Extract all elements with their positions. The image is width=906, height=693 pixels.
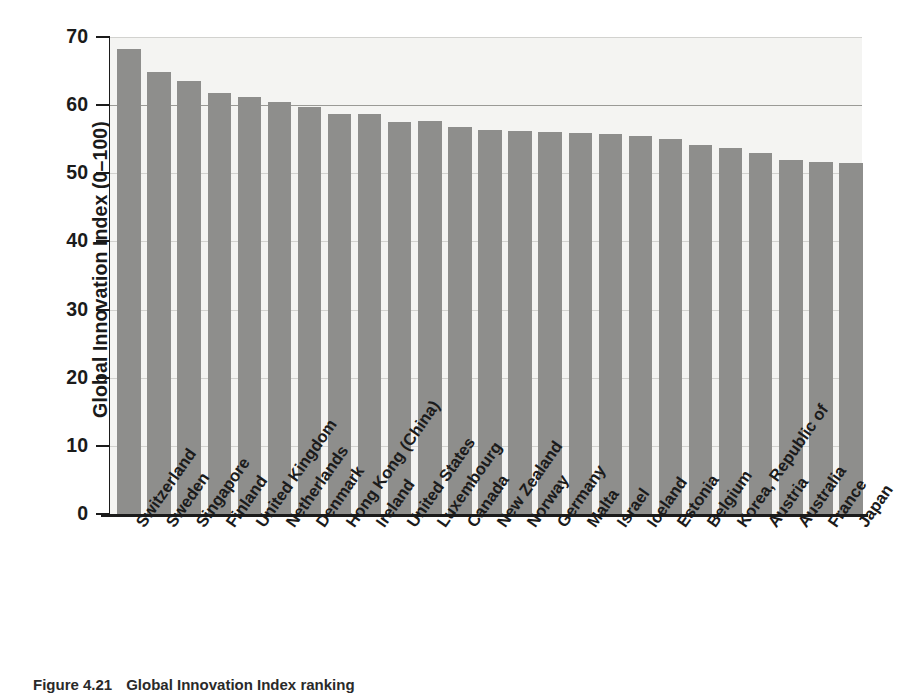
bar (689, 145, 712, 514)
y-tick-mark (96, 240, 110, 242)
y-tick-mark (96, 104, 110, 106)
y-tick-mark (96, 36, 110, 38)
bar (629, 136, 652, 514)
y-tick-label: 40 (28, 231, 88, 251)
y-tick-label: 70 (28, 27, 88, 47)
y-tick-mark (96, 445, 110, 447)
bar (508, 131, 531, 514)
bar (268, 102, 291, 514)
y-tick-mark (96, 309, 110, 311)
x-axis-labels: SwitzerlandSwedenSingaporeFinlandUnited … (0, 514, 906, 674)
y-tick-label: 60 (28, 95, 88, 115)
bar (659, 139, 682, 514)
y-tick-label: 20 (28, 368, 88, 388)
bar (719, 148, 742, 514)
y-tick-mark (96, 172, 110, 174)
figure-number: Figure 4.21 (33, 676, 112, 693)
bar (117, 49, 140, 514)
y-tick-label: 30 (28, 300, 88, 320)
bar (569, 133, 592, 514)
bar (208, 93, 231, 514)
y-tick-mark (96, 377, 110, 379)
gridline-70 (110, 37, 862, 38)
bar (358, 114, 381, 514)
y-tick-label: 50 (28, 163, 88, 183)
bar (238, 97, 261, 514)
bar (147, 72, 170, 514)
bar (418, 121, 441, 514)
bar (749, 153, 772, 514)
bar (809, 162, 832, 514)
figure-caption: Figure 4.21Global Innovation Index ranki… (33, 676, 355, 693)
bar (599, 134, 622, 514)
y-tick-label: 10 (28, 436, 88, 456)
figure-title: Global Innovation Index ranking (126, 676, 354, 693)
bar (839, 163, 862, 514)
